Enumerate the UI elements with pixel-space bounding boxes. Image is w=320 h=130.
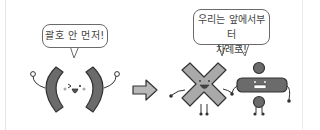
speech-bubble-parentheses: 괄호 안 먼저! xyxy=(42,24,108,48)
left-parenthesis-icon xyxy=(31,67,63,112)
parentheses-face-icon xyxy=(64,84,86,93)
multiplication-sign-icon xyxy=(169,63,232,116)
division-sign-icon xyxy=(230,63,291,116)
right-arrow-icon xyxy=(133,80,157,100)
speech-text: 괄호 안 먼저! xyxy=(45,30,104,41)
speech-text-line2: 차례로! xyxy=(194,42,269,57)
speech-text-line1: 우리는 앞에서부터 xyxy=(194,12,269,42)
right-parenthesis-icon xyxy=(86,67,119,112)
speech-bubble-operators: 우리는 앞에서부터 차례로! xyxy=(193,9,270,45)
